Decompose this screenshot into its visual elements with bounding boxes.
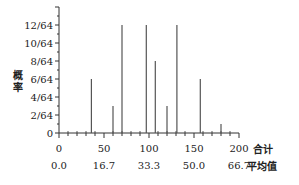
x-tick-label: 50 — [98, 143, 111, 154]
y-tick-label: 0 — [47, 128, 53, 139]
x-tick-label: 0 — [56, 143, 62, 154]
y-tick-label: 8/64 — [31, 56, 53, 67]
x-axis-title: 合计 — [252, 143, 273, 155]
x2-tick-label: 16.7 — [93, 160, 115, 171]
probability-chart: 02/644/646/648/6410/6412/640501001502000… — [0, 0, 299, 185]
axes — [55, 7, 239, 138]
y-tick-label: 2/64 — [31, 110, 53, 121]
y-tick-label: 4/64 — [31, 92, 53, 103]
y-tick-label: 12/64 — [24, 20, 53, 31]
x-tick-label: 100 — [139, 143, 158, 154]
x2-tick-label: 33.3 — [138, 160, 160, 171]
x-tick-label: 200 — [229, 143, 248, 154]
x2-axis-title: 平均值 — [247, 160, 277, 172]
y-axis-title: 概率 — [13, 69, 23, 93]
y-tick-label: 6/64 — [31, 74, 53, 85]
bars — [91, 25, 221, 133]
labels: 02/644/646/648/6410/6412/640501001502000… — [24, 20, 250, 172]
y-tick-label: 10/64 — [24, 38, 53, 49]
x-tick-label: 150 — [184, 143, 203, 154]
x2-tick-label: 0.0 — [51, 160, 67, 171]
x2-tick-label: 50.0 — [183, 160, 205, 171]
